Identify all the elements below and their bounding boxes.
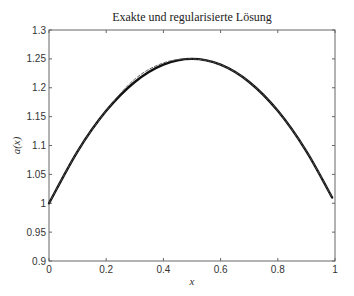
y-tick-label: 1.15	[27, 111, 47, 122]
x-tick-label: 0.2	[99, 264, 113, 275]
x-tick-label: 0.6	[214, 264, 228, 275]
y-tick-label: 1.2	[32, 82, 46, 93]
y-axis-label: a(x)	[10, 136, 23, 154]
y-tick-label: 1.1	[32, 140, 46, 151]
y-tick-label: 1.25	[27, 53, 47, 64]
y-tick-label: 1.3	[32, 25, 46, 36]
x-tick-label: 0.8	[271, 264, 285, 275]
x-tick-label: 1	[332, 264, 338, 275]
exact-solution-line	[49, 59, 332, 203]
x-tick-label: 0.4	[156, 264, 170, 275]
y-tick-label: 1	[40, 198, 46, 209]
x-tick-label: 0	[46, 264, 52, 275]
y-tick-label: 0.95	[27, 227, 47, 238]
x-axis-label: x	[189, 275, 195, 287]
line-chart: 00.20.40.60.810.90.9511.051.11.151.21.25…	[0, 0, 354, 296]
axes-box	[49, 30, 335, 261]
y-tick-label: 1.05	[27, 169, 47, 180]
y-tick-label: 0.9	[32, 256, 46, 267]
